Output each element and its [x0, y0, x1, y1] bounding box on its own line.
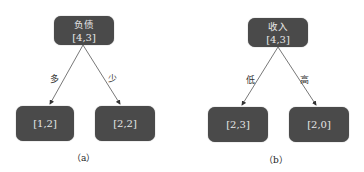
- node-a-root: 负债 [4,3]: [54, 16, 114, 45]
- node-b-left: [2,3]: [208, 107, 268, 142]
- node-value: [2,3]: [226, 118, 250, 131]
- node-value: [4,3]: [266, 33, 290, 46]
- node-value: [1,2]: [33, 117, 57, 130]
- edge-b-right: [278, 47, 316, 105]
- caption-a: （a）: [72, 151, 95, 164]
- edge-label-a-left: 多: [50, 72, 59, 85]
- node-a-right: [2,2]: [95, 106, 155, 141]
- node-b-root: 收入 [4,3]: [248, 18, 308, 47]
- edge-label-b-left: 低: [246, 73, 255, 86]
- node-value: [4,3]: [72, 31, 96, 44]
- node-b-right: [2,0]: [289, 107, 349, 142]
- node-title: 收入: [268, 20, 288, 33]
- edge-label-b-right: 高: [300, 73, 309, 86]
- node-a-left: [1,2]: [16, 106, 74, 141]
- node-value: [2,2]: [113, 117, 137, 130]
- node-title: 负债: [74, 18, 94, 31]
- node-value: [2,0]: [307, 118, 331, 131]
- caption-b: （b）: [264, 153, 288, 166]
- edge-label-a-right: 少: [108, 72, 117, 85]
